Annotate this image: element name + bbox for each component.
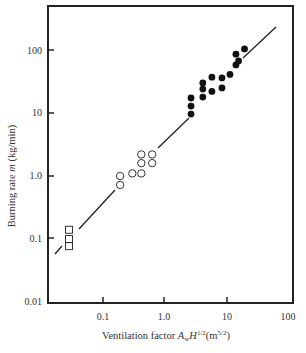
filled-circle-marker bbox=[235, 58, 242, 65]
y-tick-label: 1.0 bbox=[30, 170, 43, 181]
filled-circle-marker bbox=[188, 103, 195, 110]
open-circle-marker bbox=[129, 170, 136, 177]
x-tick-labels: 0.1 1.0 10 100 bbox=[97, 311, 296, 322]
open-circle-marker bbox=[138, 159, 145, 166]
square-marker bbox=[66, 236, 73, 243]
open-circle-marker bbox=[116, 172, 123, 179]
data-markers bbox=[66, 46, 248, 250]
filled-circle-marker bbox=[209, 88, 216, 95]
y-tick-label: 0.01 bbox=[25, 296, 43, 307]
y-tick-label: 100 bbox=[27, 45, 42, 56]
open-circle-marker bbox=[116, 181, 123, 188]
x-axis-label: Ventilation factor AwH1/2(m5/2) bbox=[102, 329, 230, 343]
filled-circle-marker bbox=[188, 95, 195, 102]
filled-circle-marker bbox=[188, 111, 195, 118]
x-tick-label: 0.1 bbox=[97, 311, 110, 322]
open-circle-marker bbox=[148, 159, 155, 166]
y-tick-labels: 0.01 0.1 1.0 10 100 bbox=[25, 45, 43, 307]
scatter-chart: 0.01 0.1 1.0 10 100 0.1 1.0 10 100 Venti… bbox=[0, 0, 306, 353]
filled-circle-marker bbox=[233, 51, 240, 58]
open-circle-marker bbox=[138, 151, 145, 158]
filled-circle-marker bbox=[199, 94, 206, 101]
x-tick-label: 1.0 bbox=[158, 311, 171, 322]
filled-circle-marker bbox=[199, 86, 206, 93]
filled-circle-marker bbox=[199, 80, 206, 87]
y-tick-label: 0.1 bbox=[30, 233, 43, 244]
square-marker bbox=[66, 226, 73, 233]
open-circle-marker bbox=[138, 170, 145, 177]
y-tick-label: 10 bbox=[32, 107, 42, 118]
filled-circle-marker bbox=[209, 74, 216, 81]
y-axis-label: Burning rate m (kg/min) bbox=[6, 124, 18, 227]
x-tick-label: 100 bbox=[281, 311, 296, 322]
square-marker bbox=[66, 243, 73, 250]
filled-circle-marker bbox=[219, 85, 226, 92]
fit-line bbox=[55, 27, 276, 254]
filled-circle-marker bbox=[241, 46, 248, 53]
open-circle-marker bbox=[148, 151, 155, 158]
plot-frame bbox=[48, 6, 293, 303]
filled-circle-marker bbox=[227, 71, 234, 78]
x-tick-label: 10 bbox=[222, 311, 232, 322]
filled-circle-marker bbox=[219, 75, 226, 82]
